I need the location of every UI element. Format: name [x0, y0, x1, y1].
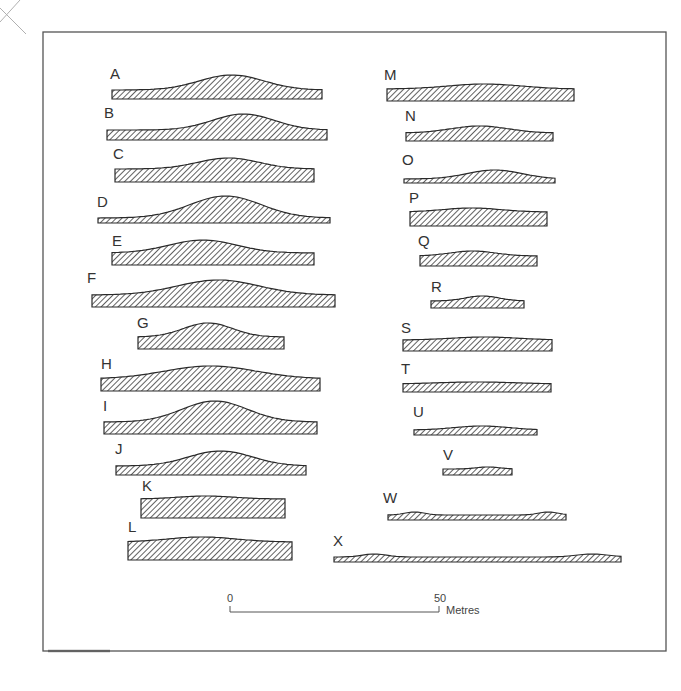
profile-label-k: K — [142, 477, 152, 494]
profile-d — [98, 196, 330, 223]
profile-label-f: F — [87, 269, 96, 286]
profile-r — [431, 296, 524, 308]
profile-p — [410, 208, 547, 226]
profile-o — [404, 170, 555, 183]
profile-e — [112, 240, 314, 265]
profile-label-v: V — [443, 446, 453, 463]
profile-label-j: J — [115, 440, 123, 457]
profile-h — [101, 366, 320, 391]
scale-start-label: 0 — [227, 592, 233, 604]
profile-label-s: S — [401, 319, 411, 336]
profile-label-g: G — [137, 314, 149, 331]
scale-end-label: 50 — [434, 592, 446, 604]
corner-cross-mark — [0, 0, 26, 34]
profile-label-a: A — [110, 65, 120, 82]
profile-label-x: X — [333, 532, 343, 549]
profile-u — [414, 426, 537, 435]
profile-m — [387, 84, 574, 101]
profile-label-p: P — [409, 189, 419, 206]
profile-label-t: T — [401, 360, 410, 377]
profile-a — [112, 75, 322, 99]
profile-n — [406, 126, 553, 141]
profile-label-h: H — [101, 355, 112, 372]
profile-g — [138, 323, 284, 349]
profile-label-i: I — [103, 397, 107, 414]
profile-s — [403, 337, 552, 351]
profile-b — [107, 114, 327, 140]
profile-label-m: M — [384, 66, 397, 83]
profile-label-q: Q — [418, 232, 430, 249]
profiles-diagram: ABCDEFGHIJKLMNOPQRSTUVWX 0 50 Metres — [0, 0, 681, 691]
profile-v — [443, 467, 512, 475]
profile-label-d: D — [97, 193, 108, 210]
profile-label-w: W — [383, 489, 398, 506]
scale-bar: 0 50 Metres — [227, 592, 480, 616]
profile-label-b: B — [104, 104, 114, 121]
profile-label-u: U — [413, 403, 424, 420]
profile-label-e: E — [112, 232, 122, 249]
profile-label-o: O — [402, 151, 414, 168]
profile-label-l: L — [128, 518, 136, 535]
profile-l — [128, 537, 292, 560]
profile-c — [115, 158, 314, 182]
profile-f — [92, 280, 335, 307]
profile-w — [388, 512, 566, 520]
scale-unit-label: Metres — [446, 604, 480, 616]
profile-k — [141, 496, 285, 518]
profile-label-c: C — [113, 145, 124, 162]
profile-j — [116, 451, 306, 475]
profile-x — [334, 554, 621, 562]
profiles-group — [92, 75, 621, 562]
profile-q — [420, 251, 537, 266]
profile-label-n: N — [405, 107, 416, 124]
profile-label-r: R — [431, 278, 442, 295]
profile-i — [104, 401, 317, 434]
profile-t — [403, 382, 551, 392]
